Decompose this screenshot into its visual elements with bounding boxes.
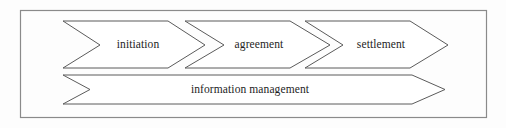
process-flow-diagram: initiation agreement settlement informat… <box>0 0 506 128</box>
diagram-canvas: initiation agreement settlement informat… <box>0 0 506 128</box>
stage-label-agreement: agreement <box>235 38 284 51</box>
stage-label-initiation: initiation <box>117 38 160 50</box>
stage-label-settlement: settlement <box>357 38 406 50</box>
band-label-information-management: information management <box>191 83 310 96</box>
